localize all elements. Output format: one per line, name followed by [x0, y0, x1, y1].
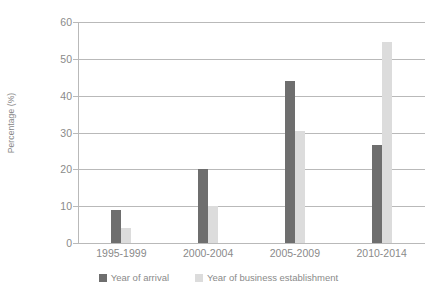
y-axis-tick-label: 50: [28, 54, 72, 65]
bar: [121, 228, 131, 243]
gridline: [78, 96, 425, 97]
y-axis-tick-mark: [73, 22, 78, 23]
y-axis-tick-mark: [73, 96, 78, 97]
gridline: [78, 59, 425, 60]
x-axis-tick-label: 2000-2004: [183, 247, 233, 259]
legend-item: Year of arrival: [99, 272, 169, 283]
y-axis-title-label: Percentage (%): [6, 92, 16, 152]
x-axis-tick-labels: 1995-19992000-20042005-20092010-2014: [78, 247, 425, 263]
y-axis-tick-label: 10: [28, 201, 72, 212]
bar: [285, 81, 295, 243]
y-axis-tick-mark: [73, 169, 78, 170]
y-axis-title: Percentage (%): [0, 0, 22, 245]
x-axis-tick-label: 1995-1999: [96, 247, 146, 259]
x-axis-tick-label: 2010-2014: [357, 247, 407, 259]
legend-item: Year of business establishment: [195, 272, 338, 283]
chart-legend: Year of arrivalYear of business establis…: [0, 272, 437, 283]
gridline: [78, 22, 425, 23]
bar: [111, 210, 121, 243]
legend-swatch-icon: [99, 274, 107, 282]
y-axis-tick-label: 20: [28, 164, 72, 175]
legend-label: Year of arrival: [111, 272, 169, 283]
y-axis-tick-label: 0: [28, 238, 72, 249]
bar-chart: Percentage (%) 0102030405060 1995-199920…: [0, 0, 437, 293]
gridline: [78, 133, 425, 134]
bar: [295, 131, 305, 243]
legend-label: Year of business establishment: [207, 272, 338, 283]
gridline: [78, 243, 425, 244]
y-axis-tick-mark: [73, 243, 78, 244]
legend-swatch-icon: [195, 274, 203, 282]
bar: [382, 42, 392, 243]
y-axis-tick-mark: [73, 59, 78, 60]
plot-area: [78, 22, 425, 243]
y-axis-tick-mark: [73, 206, 78, 207]
bar: [372, 145, 382, 243]
x-axis-tick-label: 2005-2009: [270, 247, 320, 259]
y-axis-tick-label: 30: [28, 127, 72, 138]
y-axis-tick-label: 60: [28, 17, 72, 28]
y-axis-tick-label: 40: [28, 90, 72, 101]
y-axis-tick-labels: 0102030405060: [28, 0, 72, 293]
y-axis-tick-mark: [73, 133, 78, 134]
bar: [198, 169, 208, 243]
bar: [208, 206, 218, 243]
